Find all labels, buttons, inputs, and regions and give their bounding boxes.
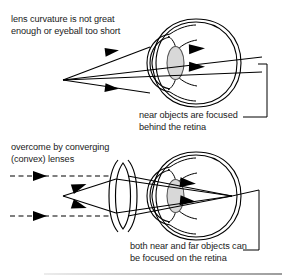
- figure-hyperopia-diagram: lens curvature is not great enough or ey…: [0, 0, 282, 277]
- caption-bottom-right: both near and far objects can be focused…: [130, 241, 247, 264]
- far-ray-arrowheads: [33, 171, 47, 221]
- eyeball-outline-top: [152, 19, 241, 107]
- ray-arrowheads-top: [104, 44, 205, 94]
- diagram-canvas: [0, 0, 282, 277]
- caption-bottom-left: overcome by converging (convex) lenses: [11, 142, 109, 165]
- corrective-convex-lens: [109, 160, 137, 232]
- caption-top-right: near objects are focused behind the reti…: [139, 110, 238, 133]
- eyeball-outline-bottom: [152, 152, 241, 240]
- far-object-rays-dashed: [10, 176, 112, 216]
- bottom-panel-group: [10, 152, 259, 250]
- caption-top-left: lens curvature is not great enough or ey…: [11, 14, 120, 37]
- eye-lens-top: [167, 47, 184, 80]
- page-bottom-edge: [44, 273, 282, 275]
